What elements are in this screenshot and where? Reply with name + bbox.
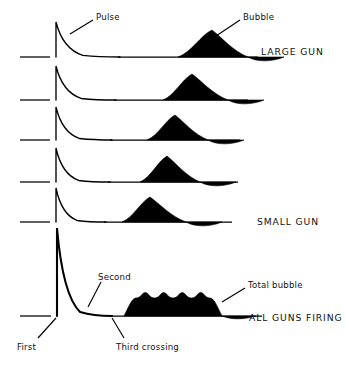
trace-group bbox=[20, 22, 284, 319]
leader-line-pulse bbox=[70, 20, 93, 34]
annotation-total-bubble: Total bubble bbox=[248, 280, 303, 290]
gun-label-all-guns-firing: ALL GUNS FIRING bbox=[249, 312, 343, 323]
gun-label-large-gun: LARGE GUN bbox=[261, 46, 324, 57]
figure-root: PulseBubbleSecondTotal bubbleFirstThird … bbox=[0, 0, 345, 370]
annotation-bubble: Bubble bbox=[243, 12, 274, 22]
leader-line-third-crossing bbox=[112, 318, 124, 338]
annotation-second: Second bbox=[98, 272, 131, 282]
trace-3 bbox=[20, 107, 244, 144]
leader-line-second bbox=[88, 282, 101, 307]
annotation-third-crossing: Third crossing bbox=[116, 342, 179, 352]
leader-line-first bbox=[38, 318, 56, 338]
leader-line-bubble bbox=[216, 20, 240, 36]
trace-2 bbox=[20, 66, 264, 104]
gun-label-small-gun: SMALL GUN bbox=[257, 216, 319, 227]
trace-1-large-gun bbox=[20, 22, 284, 61]
leader-line-total-bubble bbox=[222, 288, 245, 302]
annotation-first: First bbox=[17, 342, 36, 352]
trace-5-small-gun bbox=[20, 188, 232, 226]
trace-4 bbox=[20, 148, 238, 186]
annotation-pulse: Pulse bbox=[96, 12, 120, 22]
trace-6-all-guns-firing bbox=[20, 228, 262, 319]
